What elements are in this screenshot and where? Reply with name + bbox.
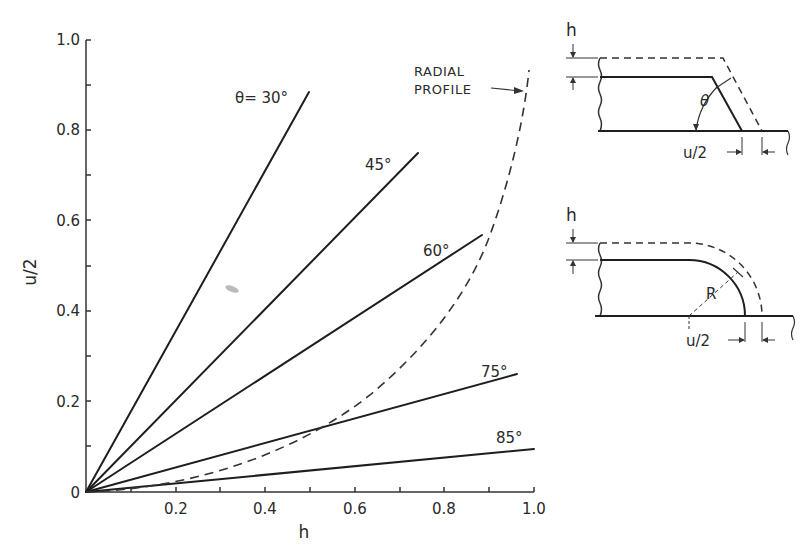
y-tick-label: 0.2: [56, 393, 80, 411]
y-axis-title: u/2: [20, 258, 40, 285]
diagram-h-label: h: [566, 205, 577, 225]
radial-profile-diagram: h R u/2: [566, 205, 795, 350]
x-tick-label: 0.4: [253, 500, 277, 518]
y-tick-label: 1.0: [56, 31, 80, 49]
diagram-r-label: R: [706, 285, 716, 303]
x-tick-label: 0.8: [432, 500, 456, 518]
radial-profile-annotation: PROFILE: [414, 82, 471, 97]
x-tick-label: 0.6: [343, 500, 367, 518]
y-axis: [86, 40, 91, 492]
diagram-h-label: h: [566, 20, 577, 40]
x-tick-label: 0.2: [164, 500, 188, 518]
diagram-theta-label: θ: [700, 92, 709, 110]
x-tick-label: 1.0: [522, 500, 546, 518]
angular-profile-diagram: h θ u/2: [566, 20, 790, 162]
y-tick-label: 0.4: [56, 302, 80, 320]
diagram-u-label: u/2: [683, 144, 707, 162]
x-axis-title: h: [299, 522, 310, 542]
series-label-30: θ= 30°: [235, 89, 288, 107]
diagram-u-label: u/2: [686, 332, 710, 350]
series-label-60: 60°: [423, 242, 450, 260]
radial-profile-annotation: RADIAL: [414, 64, 465, 79]
series-line-radial-profile: [86, 70, 529, 492]
series-line-30: [86, 92, 309, 492]
smudge-mark: [224, 284, 239, 294]
series-line-45: [86, 153, 418, 492]
x-axis: [86, 487, 534, 492]
series-label-85: 85°: [496, 429, 523, 447]
y-tick-label: 0.8: [56, 121, 80, 139]
figure: 1.0 0.8 0.6 0.4 0.2 0 0.2 0.4 0.6 0.8 1.…: [0, 0, 812, 551]
arrow-icon: [491, 87, 524, 94]
y-tick-label: 0.6: [56, 212, 80, 230]
series-line-60: [86, 235, 482, 492]
series-label-45: 45°: [365, 156, 392, 174]
series-label-75: 75°: [481, 363, 508, 381]
series-line-75: [86, 374, 517, 492]
y-tick-label: 0: [70, 484, 80, 502]
